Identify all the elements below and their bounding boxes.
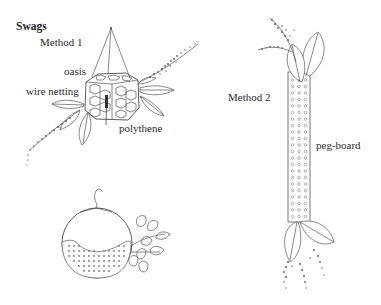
basket-liner [62, 240, 131, 278]
hanging-strings [92, 27, 130, 78]
label-wire-netting: wire netting [26, 86, 79, 97]
label-oasis: oasis [64, 66, 86, 77]
oasis-cube [85, 73, 139, 125]
method1-heading: Method 1 [40, 37, 82, 48]
method2-peg-board [258, 18, 334, 289]
label-peg-board: peg-board [316, 140, 361, 151]
peg-board-bottom-leaves [283, 221, 334, 289]
method2-heading: Method 2 [228, 92, 270, 103]
figure-title: Swags [16, 21, 47, 33]
label-polythene: polythene [119, 123, 162, 134]
peg-board-top-leaves [258, 18, 324, 82]
basket-leaves [129, 216, 170, 272]
hanging-basket [62, 189, 170, 278]
